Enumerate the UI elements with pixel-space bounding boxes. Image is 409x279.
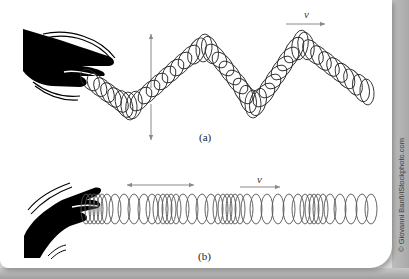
- panel-label-a: (a): [199, 131, 211, 143]
- hand-icon-a: [23, 29, 115, 100]
- panel-a: [23, 24, 375, 140]
- panel-b: [24, 183, 377, 259]
- slinky-coils-transverse: [77, 29, 376, 121]
- slinky-coils-longitudinal: [81, 194, 377, 224]
- photo-credit: © Giovanni Banfi/iStockphoto.com: [397, 138, 406, 252]
- velocity-label-b: v: [257, 173, 262, 185]
- panel-label-b: (b): [198, 250, 211, 262]
- figure-page: v (a) v (b) © Giovanni Banfi/iStockphoto…: [0, 0, 409, 279]
- velocity-label-a: v: [304, 8, 309, 20]
